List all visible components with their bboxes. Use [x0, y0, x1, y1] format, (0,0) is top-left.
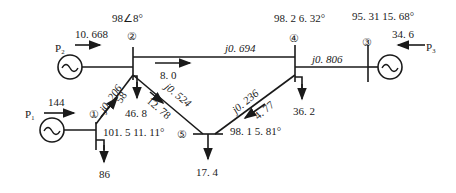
bus-1-voltage: 101. 5 11. 11°	[103, 126, 164, 138]
load-4-value: 36. 2	[293, 105, 315, 117]
line-4-5-flow: 4. 77	[252, 98, 277, 122]
generator-2-power: 10. 668	[75, 28, 109, 40]
power-system-diagram: ② ① ④ ③ ⑤ 98∠8° 101. 5 11. 11° 98. 2 6. …	[0, 0, 456, 193]
bus-5-label: ⑤	[177, 128, 187, 140]
bus-3-label: ③	[362, 36, 372, 48]
load-2-value: 46. 8	[125, 107, 148, 119]
generator-3-power: 34. 6	[392, 28, 415, 40]
generator-1-power: 144	[48, 96, 65, 108]
generator-2-name: P₂	[55, 42, 65, 54]
bus-2-label: ②	[127, 30, 137, 42]
generator-3-name: P₃	[426, 41, 436, 53]
bus-4-voltage: 98. 2 6. 32°	[274, 12, 325, 24]
load-1-value: 86	[99, 168, 111, 180]
bus-4-label: ④	[289, 32, 299, 44]
line-2-4-impedance: j0. 694	[223, 42, 256, 54]
bus-1-label: ①	[89, 108, 99, 120]
bus-5-voltage: 98. 1 5. 81°	[230, 125, 281, 137]
line-4-3-impedance: j0. 806	[310, 53, 343, 65]
bus-3-voltage: 95. 31 15. 68°	[352, 10, 414, 22]
load-5-value: 17. 4	[196, 166, 219, 178]
bus-2-voltage: 98∠8°	[112, 12, 143, 24]
line-2-4-flow: 8. 0	[160, 69, 177, 81]
line-2-5-flow: 12. 78	[145, 94, 174, 121]
generator-1-name: P₁	[25, 108, 35, 120]
